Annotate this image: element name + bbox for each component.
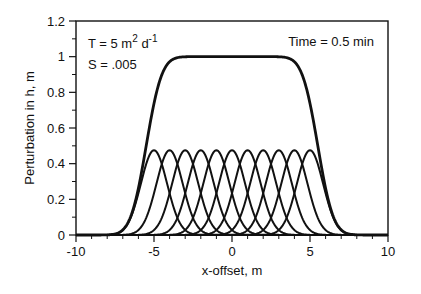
superposition-curve — [76, 57, 388, 235]
y-tick-label: 0.4 — [47, 156, 65, 171]
y-axis-title: Perturbation in h, m — [22, 71, 37, 184]
annotation-transmissivity: T = 5 m2 d-1 — [88, 33, 158, 51]
x-axis-title: x-offset, m — [202, 263, 262, 278]
pulse-curve — [76, 150, 388, 235]
x-tick-label: -10 — [67, 244, 86, 259]
x-tick-label: 10 — [381, 244, 395, 259]
plot-frame — [76, 21, 388, 235]
y-tick-label: 1 — [58, 49, 65, 64]
y-tick-label: 0 — [58, 228, 65, 243]
y-tick-label: 0.6 — [47, 121, 65, 136]
y-axis: 00.20.40.60.811.2 — [47, 14, 76, 243]
x-tick-label: 5 — [306, 244, 313, 259]
x-tick-label: -5 — [148, 244, 160, 259]
y-tick-label: 1.2 — [47, 14, 65, 29]
y-tick-label: 0.2 — [47, 192, 65, 207]
x-axis: -10-50510 — [67, 235, 396, 259]
annotation-time: Time = 0.5 min — [288, 34, 374, 49]
annotation-storativity: S = .005 — [88, 57, 137, 72]
chart: 00.20.40.60.811.2 -10-50510 x-offset, m … — [0, 0, 421, 294]
x-tick-label: 0 — [228, 244, 235, 259]
y-tick-label: 0.8 — [47, 85, 65, 100]
chart-curves — [76, 57, 388, 235]
